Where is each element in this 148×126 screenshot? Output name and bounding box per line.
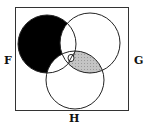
empty-set-icon: [68, 54, 74, 63]
set-f-label: F: [4, 55, 12, 66]
set-g-label: G: [134, 55, 143, 66]
venn-diagram: [0, 0, 148, 126]
set-h-label: H: [69, 113, 79, 124]
